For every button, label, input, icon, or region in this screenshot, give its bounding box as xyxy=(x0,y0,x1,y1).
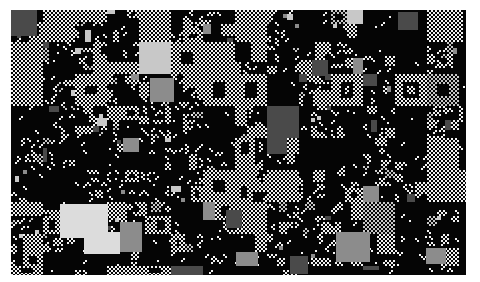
fractal-quadtree-canvas xyxy=(11,10,466,275)
artwork-stage xyxy=(0,0,480,282)
